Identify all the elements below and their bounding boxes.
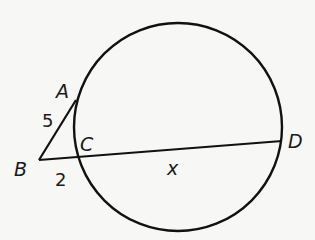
diagram-canvas: A B C D 5 2 x — [0, 0, 315, 240]
point-label-b: B — [14, 158, 27, 180]
geometry-diagram: A B C D 5 2 x — [0, 0, 315, 240]
point-label-a: A — [54, 80, 69, 102]
segment-label-bc: 2 — [55, 169, 66, 190]
segment-label-cd: x — [166, 157, 179, 179]
point-label-c: C — [80, 133, 94, 155]
circle — [74, 23, 282, 231]
segment-label-ab: 5 — [42, 110, 53, 131]
point-label-d: D — [288, 130, 303, 152]
